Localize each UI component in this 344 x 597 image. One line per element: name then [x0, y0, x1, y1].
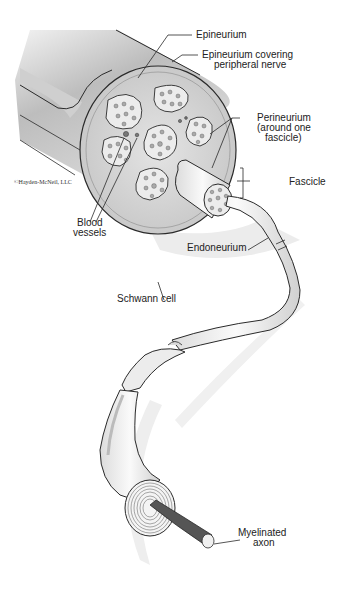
peripheral-nerve-diagram: Epineurium Epineurium covering periphera… — [0, 0, 344, 597]
label-epineurium-covering-line2: peripheral nerve — [214, 60, 286, 70]
label-endoneurium: Endoneurium — [187, 243, 246, 253]
label-schwann-cell: Schwann cell — [117, 294, 176, 304]
copyright-notice: ©Hayden-McNeil, LLC — [14, 179, 72, 185]
label-blood-vessels-line2: vessels — [73, 228, 106, 238]
label-perineurium-line3: fascicle) — [265, 133, 302, 143]
label-myelinated-axon-line2: axon — [253, 538, 275, 548]
label-epineurium: Epineurium — [196, 30, 247, 40]
label-fascicle: Fascicle — [289, 177, 326, 187]
